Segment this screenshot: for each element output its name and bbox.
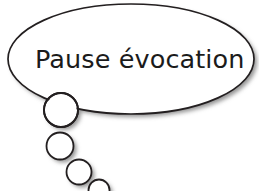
tail-circle-1-inner-mask xyxy=(45,94,76,125)
thought-bubble-illustration: Pause évocation xyxy=(0,0,259,191)
bubble-label: Pause évocation xyxy=(35,44,244,74)
bubble-graphic: Pause évocation xyxy=(0,0,259,191)
